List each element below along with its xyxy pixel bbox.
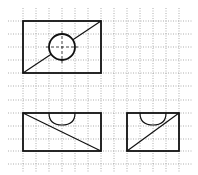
diagram-canvas (0, 0, 198, 175)
dotted-grid (8, 8, 192, 172)
